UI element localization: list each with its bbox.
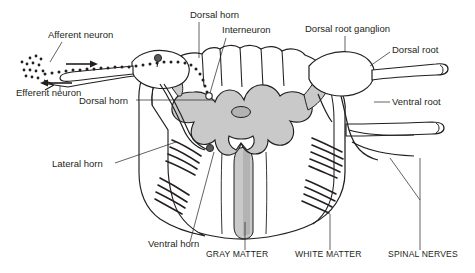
- sensory-cell-body: [154, 54, 161, 61]
- leader-dorsal-root: [370, 52, 390, 66]
- sensory-receptor-spray: [21, 55, 45, 80]
- dorsal-root-ganglion-shape: [309, 52, 374, 96]
- central-canal: [232, 107, 251, 118]
- ventral-root-tube: [346, 122, 444, 136]
- afferent-direction-arrow: [66, 61, 98, 68]
- label-interneuron: Interneuron: [222, 24, 271, 35]
- label-white-matter: WHITE MATTER: [295, 249, 362, 259]
- label-ventral-horn: Ventral horn: [148, 238, 199, 249]
- interneuron-body: [206, 93, 212, 99]
- motor-neuron-body: [206, 144, 213, 151]
- label-afferent-neuron: Afferent neuron: [48, 29, 113, 40]
- label-dorsal-horn-top: Dorsal horn: [190, 9, 239, 20]
- label-dorsal-root-ganglion: Dorsal root ganglion: [305, 23, 390, 34]
- dorsal-root-tube: [372, 64, 448, 80]
- leader-afferent-neuron: [50, 42, 62, 62]
- label-dorsal-horn-left: Dorsal horn: [79, 95, 128, 106]
- spinal-cord-diagram: Afferent neuron Efferent neuron Dorsal h…: [0, 0, 475, 273]
- label-ventral-root: Ventral root: [392, 96, 441, 107]
- label-efferent-neuron: Efferent neuron: [16, 87, 81, 98]
- label-gray-matter: GRAY MATTER: [206, 249, 268, 259]
- label-spinal-nerves: SPINAL NERVES: [388, 249, 458, 259]
- spinal-nerve-branch-right-lower: [352, 142, 414, 156]
- label-dorsal-root: Dorsal root: [392, 44, 439, 55]
- leader-spinal-nerves-fork: [390, 158, 420, 200]
- median-fissure-shadow: [243, 150, 250, 236]
- label-lateral-horn: Lateral horn: [52, 158, 103, 169]
